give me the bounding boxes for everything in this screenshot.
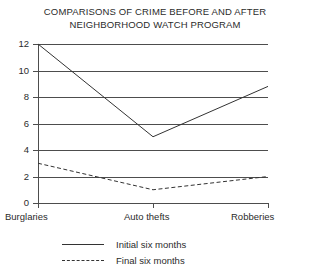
data-series-layer [0,38,310,210]
legend-item-initial-six-months: Initial six months [62,237,262,253]
legend-label-final-six-months: Final six months [116,253,185,268]
chart-title-line-2: NEIGHBORHOOD WATCH PROGRAM [0,18,310,31]
legend-swatch-dashed-line [62,260,104,261]
chart-title: COMPARISONS OF CRIME BEFORE AND AFTER NE… [0,5,310,31]
chart-legend: Initial six months Final six months [62,237,262,269]
chart-title-line-1: COMPARISONS OF CRIME BEFORE AND AFTER [0,5,310,18]
legend-swatch-solid-line [62,244,104,245]
series-line-final-six-months [38,163,268,190]
x-axis-label-auto-thefts: Auto thefts [124,211,169,222]
x-axis-label-burglaries: Burglaries [5,211,48,222]
legend-item-final-six-months: Final six months [62,253,262,269]
series-line-initial-six-months [38,44,268,137]
legend-label-initial-six-months: Initial six months [116,237,186,252]
x-axis-label-robberies: Robberies [231,211,274,222]
chart-figure: COMPARISONS OF CRIME BEFORE AND AFTER NE… [0,0,310,278]
plot-area: 024681012 Burglaries Auto thefts Robberi… [0,38,310,210]
